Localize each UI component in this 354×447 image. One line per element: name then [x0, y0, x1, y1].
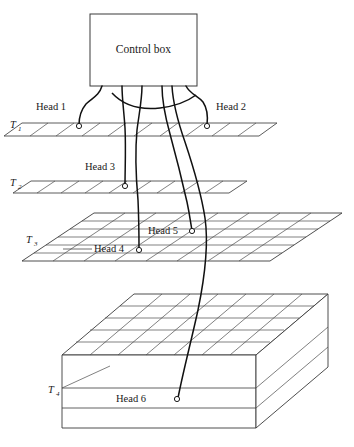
head-5-dot: [189, 228, 194, 233]
head-2-dot: [204, 123, 209, 128]
layer-t3-label: T: [26, 234, 33, 245]
head-2-label: Head 2: [216, 101, 246, 112]
head-4-label: Head 4: [94, 243, 125, 254]
layer-t2-plane: [13, 181, 247, 193]
figure-canvas: Control box: [0, 0, 354, 447]
layer-t1-subscript: 1: [18, 125, 22, 133]
cable-head-2: [186, 86, 207, 125]
layer-t2-label: T: [10, 177, 17, 188]
layer-t4-label: T: [48, 384, 55, 395]
layer-t1-plane: [4, 123, 277, 136]
cable-head-1: [79, 86, 102, 125]
layer-t2-subscript: 2: [18, 183, 22, 191]
head-1-dot: [76, 123, 81, 128]
technical-diagram: Control box: [0, 0, 354, 447]
layer-t3-subscript: 3: [33, 240, 38, 248]
layer-t4-block: [62, 294, 328, 428]
control-box-label: Control box: [116, 43, 172, 55]
head-5-label: Head 5: [148, 225, 178, 236]
layer-t3-plane: [22, 213, 342, 261]
head-1-label: Head 1: [36, 101, 66, 112]
control-box[interactable]: Control box: [90, 14, 197, 86]
head-4-dot: [136, 247, 141, 252]
head-3-label: Head 3: [85, 161, 115, 172]
head-3-dot: [122, 183, 127, 188]
head-6-dot: [174, 396, 179, 401]
layer-t4-subscript: 4: [56, 390, 60, 398]
cable-crossover: [112, 93, 196, 108]
head-6-label: Head 6: [116, 393, 146, 404]
